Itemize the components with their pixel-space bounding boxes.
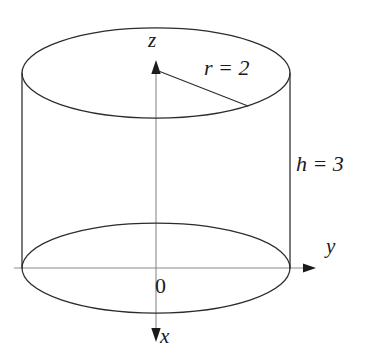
- cylinder-figure: z r = 2 h = 3 y 0 x: [0, 0, 374, 355]
- z-axis-label: z: [148, 30, 156, 51]
- radius-label: r = 2: [204, 57, 249, 79]
- cylinder-diagram-svg: [0, 0, 374, 355]
- y-axis-arrowhead: [303, 264, 316, 273]
- y-axis-label: y: [326, 236, 335, 257]
- origin-label: 0: [155, 275, 166, 297]
- height-label: h = 3: [296, 153, 344, 175]
- x-axis-label: x: [160, 326, 169, 347]
